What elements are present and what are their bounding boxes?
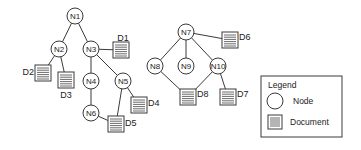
- node-n7[interactable]: N7: [178, 24, 194, 40]
- document-d3[interactable]: D3: [58, 72, 74, 100]
- node-label: N7: [181, 28, 192, 37]
- node-label: N1: [70, 12, 81, 21]
- node-label: N5: [118, 77, 129, 86]
- document-d2[interactable]: D2: [22, 65, 51, 81]
- document-d8[interactable]: D8: [180, 89, 209, 105]
- document-d1[interactable]: D1: [113, 33, 129, 58]
- node-label: N8: [150, 62, 161, 71]
- legend-title: Legend: [268, 80, 297, 90]
- document-label: D8: [197, 89, 209, 99]
- document-d7[interactable]: D7: [220, 89, 249, 105]
- node-label: N6: [86, 109, 97, 118]
- node-n6[interactable]: N6: [83, 105, 99, 121]
- graph-diagram: D1D2D3D4D5D6D7D8 N1N2N3N4N5N6N7N8N9N10 L…: [0, 0, 361, 150]
- node-n5[interactable]: N5: [115, 73, 131, 89]
- node-n8[interactable]: N8: [147, 58, 163, 74]
- document-label: D4: [148, 98, 160, 108]
- node-n1[interactable]: N1: [67, 8, 83, 24]
- node-label: N2: [54, 45, 65, 54]
- node-label: N10: [211, 62, 226, 71]
- node-n9[interactable]: N9: [178, 58, 194, 74]
- node-n10[interactable]: N10: [210, 58, 226, 74]
- legend-node-label: Node: [293, 96, 314, 106]
- document-label: D5: [125, 118, 137, 128]
- document-label: D2: [22, 67, 34, 77]
- document-label: D3: [60, 90, 72, 100]
- node-n2[interactable]: N2: [51, 41, 67, 57]
- legend-document-label: Document: [290, 117, 329, 127]
- document-d6[interactable]: D6: [222, 32, 251, 48]
- document-label: D6: [239, 32, 251, 42]
- document-label: D1: [117, 33, 129, 43]
- document-d5[interactable]: D5: [108, 116, 137, 132]
- node-label: N3: [86, 45, 97, 54]
- document-label: D7: [237, 89, 249, 99]
- node-n3[interactable]: N3: [83, 41, 99, 57]
- document-d4[interactable]: D4: [131, 97, 160, 113]
- node-label: N9: [181, 62, 192, 71]
- legend-node-icon: [267, 93, 283, 109]
- legend-document-icon: [268, 115, 282, 129]
- node-n4[interactable]: N4: [83, 73, 99, 89]
- node-label: N4: [86, 77, 97, 86]
- legend: Legend Node Document: [261, 76, 342, 137]
